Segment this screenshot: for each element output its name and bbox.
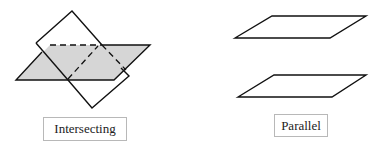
parallel-plane-bottom — [238, 75, 366, 97]
intersecting-label-text: Intersecting — [54, 121, 115, 137]
parallel-plane-top — [235, 16, 366, 38]
vertical-plane-edge — [36, 11, 102, 45]
intersecting-label: Intersecting — [43, 117, 127, 141]
parallel-label: Parallel — [274, 114, 328, 137]
parallel-label-text: Parallel — [281, 118, 321, 134]
